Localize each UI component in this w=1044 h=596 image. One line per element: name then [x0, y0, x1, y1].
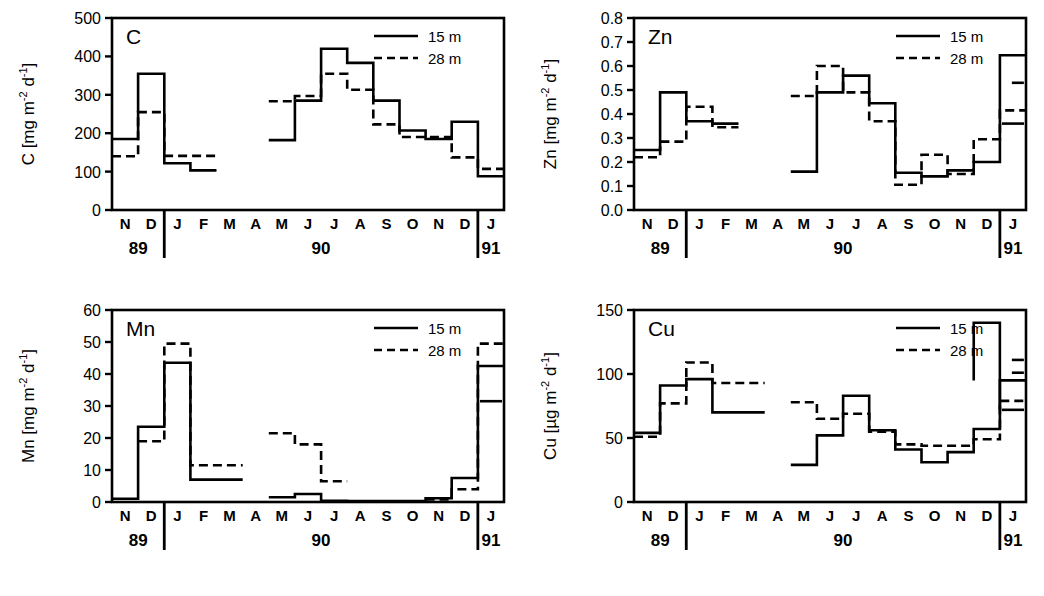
x-axis-month-label: M [276, 507, 289, 524]
x-axis-year-label: 90 [312, 531, 331, 550]
y-tick-label: 0.1 [601, 178, 623, 195]
legend-label-28m: 28 m [950, 342, 983, 359]
panel-c: C [mg m-2 d-1]0100200300400500C15 m28 mN… [0, 0, 522, 300]
x-axis-month-label: J [1009, 507, 1017, 524]
y-axis-label: Cu [µg m-2 d-1] [539, 352, 561, 460]
x-axis-month-label: F [199, 215, 208, 232]
x-axis-year-label: 90 [312, 239, 331, 258]
x-axis-month-label: J [695, 507, 703, 524]
y-tick-label: 0.8 [601, 10, 623, 27]
panel-letter: C [126, 25, 141, 48]
x-axis-month-label: O [407, 507, 419, 524]
series-15m [634, 379, 1026, 465]
y-tick-label: 200 [74, 125, 101, 142]
x-axis-month-label: J [304, 507, 312, 524]
x-axis-month-label: O [407, 215, 419, 232]
x-axis-month-label: A [877, 215, 888, 232]
x-axis-month-label: J [852, 215, 860, 232]
y-tick-label: 0.7 [601, 34, 623, 51]
panel-letter: Cu [648, 317, 675, 340]
x-axis-month-label: J [826, 215, 834, 232]
plot-frame [112, 18, 504, 210]
x-axis-month-label: J [330, 215, 338, 232]
x-axis-month-label: N [955, 215, 966, 232]
series-15m [112, 363, 504, 501]
x-axis-month-label: A [772, 507, 783, 524]
panel-mn: Mn [mg m-2 d-1]0102030405060Mn15 m28 mND… [0, 292, 522, 592]
y-tick-label: 20 [83, 430, 101, 447]
y-tick-label: 500 [74, 10, 101, 27]
legend-label-15m: 15 m [428, 28, 461, 45]
x-axis-month-label: D [146, 507, 157, 524]
x-axis-month-label: N [433, 507, 444, 524]
x-axis-month-label: F [721, 215, 730, 232]
x-axis-month-label: O [929, 507, 941, 524]
x-axis-year-label: 90 [834, 531, 853, 550]
y-tick-label: 0 [92, 202, 101, 219]
x-axis-month-label: J [1009, 215, 1017, 232]
panel-cu: Cu [µg m-2 d-1]050100150Cu15 m28 mNDJFMA… [522, 292, 1044, 592]
y-tick-label: 0.2 [601, 154, 623, 171]
y-tick-label: 60 [83, 302, 101, 319]
y-tick-label: 0.3 [601, 130, 623, 147]
panel-letter: Zn [648, 25, 673, 48]
x-axis-year-label: 91 [481, 239, 500, 258]
x-axis-year-label: 91 [1003, 239, 1022, 258]
x-axis-month-label: A [355, 215, 366, 232]
x-axis-month-label: A [355, 507, 366, 524]
series-28m [112, 74, 504, 169]
x-axis-month-label: A [772, 215, 783, 232]
y-tick-label: 0.4 [601, 106, 623, 123]
y-tick-label: 30 [83, 398, 101, 415]
x-axis-month-label: J [695, 215, 703, 232]
x-axis-month-label: D [981, 507, 992, 524]
y-tick-label: 300 [74, 87, 101, 104]
legend-label-15m: 15 m [428, 320, 461, 337]
x-axis-month-label: N [120, 215, 131, 232]
figure-four-panel-flux-timeseries: C [mg m-2 d-1]0100200300400500C15 m28 mN… [0, 0, 1044, 596]
x-axis-month-label: S [381, 507, 391, 524]
y-tick-label: 50 [83, 334, 101, 351]
x-axis-year-label: 89 [651, 239, 670, 258]
y-tick-label: 0 [614, 494, 623, 511]
x-axis-month-label: J [487, 215, 495, 232]
x-axis-month-label: J [173, 215, 181, 232]
x-axis-month-label: M [798, 507, 811, 524]
x-axis-month-label: M [223, 215, 236, 232]
y-tick-label: 100 [74, 164, 101, 181]
y-tick-label: 50 [605, 430, 623, 447]
y-axis-label: Zn [mg m-2 d-1] [539, 59, 561, 169]
x-axis-month-label: N [120, 507, 131, 524]
y-tick-label: 40 [83, 366, 101, 383]
x-axis-month-label: D [146, 215, 157, 232]
x-axis-month-label: M [745, 215, 758, 232]
x-axis-month-label: J [487, 507, 495, 524]
x-axis-month-label: F [721, 507, 730, 524]
legend-label-28m: 28 m [950, 50, 983, 67]
x-axis-month-label: O [929, 215, 941, 232]
x-axis-year-label: 89 [651, 531, 670, 550]
y-axis-label: C [mg m-2 d-1] [17, 63, 39, 166]
y-tick-label: 150 [596, 302, 623, 319]
series-28m [138, 344, 504, 500]
x-axis-month-label: N [433, 215, 444, 232]
series-28m [634, 66, 1026, 185]
series-28m [634, 363, 1026, 446]
x-axis-month-label: M [745, 507, 758, 524]
x-axis-month-label: N [955, 507, 966, 524]
y-tick-label: 400 [74, 48, 101, 65]
x-axis-month-label: S [903, 507, 913, 524]
plot-frame [112, 310, 504, 502]
x-axis-month-label: J [304, 215, 312, 232]
x-axis-year-label: 90 [834, 239, 853, 258]
y-tick-label: 0.0 [601, 202, 623, 219]
x-axis-month-label: D [668, 507, 679, 524]
x-axis-month-label: D [459, 215, 470, 232]
y-tick-label: 0 [92, 494, 101, 511]
x-axis-month-label: S [381, 215, 391, 232]
legend-label-28m: 28 m [428, 342, 461, 359]
plot-frame [634, 18, 1026, 210]
legend-label-15m: 15 m [950, 28, 983, 45]
y-tick-label: 100 [596, 366, 623, 383]
panel-zn: Zn [mg m-2 d-1]0.00.10.20.30.40.50.60.70… [522, 0, 1044, 300]
